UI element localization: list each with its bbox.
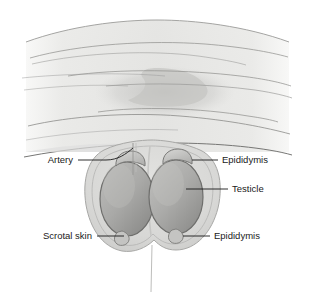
scrotum-region xyxy=(85,140,220,292)
abdomen-region xyxy=(22,20,292,157)
scrotal-raphe xyxy=(151,245,152,292)
label-testicle-text: Testicle xyxy=(232,183,264,194)
label-epididymis-top-text: Epididymis xyxy=(222,154,268,165)
label-epididymis-bottom-text: Epididymis xyxy=(214,230,260,241)
label-artery-text: Artery xyxy=(48,154,74,165)
anatomy-figure: Artery Epididymis Testicle Epididymis Sc… xyxy=(0,0,313,300)
anatomy-illustration: Artery Epididymis Testicle Epididymis Sc… xyxy=(0,0,313,300)
testicle-right-highlight xyxy=(152,162,184,206)
label-scrotal-skin-text: Scrotal skin xyxy=(43,230,92,241)
testicle-left-highlight xyxy=(103,164,135,208)
